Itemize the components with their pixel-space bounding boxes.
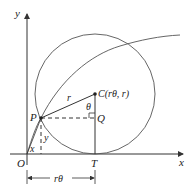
cycloid-diagram: y x O T P Q C(rθ, r) r θ y x rθ [0,0,196,191]
right-angle-marker [89,113,95,118]
arc-length-label: rθ [54,173,63,184]
y-axis-label: y [14,7,20,19]
point-c-label: C(rθ, r) [98,88,130,100]
point-p-dot [39,116,43,120]
point-c-dot [93,92,97,96]
origin-label: O [17,157,25,169]
point-t-label: T [91,157,98,169]
horizontal-x-label: x [29,143,35,154]
point-q-label: Q [97,112,105,124]
vertical-y-label: y [43,132,49,143]
radius-label: r [67,92,71,103]
angle-label: θ [86,101,91,112]
x-axis-label: x [178,156,184,168]
point-p-label: P [29,111,37,123]
